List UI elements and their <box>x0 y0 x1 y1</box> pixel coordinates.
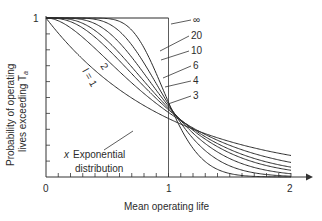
leader-line <box>160 36 189 51</box>
annotation-leader <box>104 131 133 150</box>
y-axis-label-line1: Probability of operating <box>5 64 16 166</box>
annotation-marker: x <box>63 149 70 160</box>
y-tick-1: 1 <box>33 13 39 24</box>
annotation-line1-group: xExponential <box>63 149 125 160</box>
annotation-line2: distribution <box>75 163 123 174</box>
x-tick-1: 1 <box>166 183 172 194</box>
curve-label: 10 <box>191 45 203 56</box>
x-tick-2: 2 <box>287 183 293 194</box>
curve-label: 6 <box>193 60 199 71</box>
annotation-line1: Exponential <box>73 149 125 160</box>
curve-label: 3 <box>193 90 199 101</box>
reliability-chart: 3461020∞2l = 1 1 0 1 2 Mean operating li… <box>0 0 322 221</box>
curve-label-2: 2 <box>98 61 110 72</box>
y-axis-label: Probability of operating lives exceeding… <box>5 64 29 166</box>
x-axis-label: Mean operating life <box>124 201 209 212</box>
curve-label: 4 <box>193 75 199 86</box>
curve-label: ∞ <box>193 14 200 25</box>
y-axis-label-subscript: a <box>22 71 29 75</box>
leader-line <box>171 20 191 24</box>
y-axis-label-line2: lives exceeding T <box>17 75 28 152</box>
leader-line <box>168 96 191 104</box>
curve-label-l1: l = 1 <box>80 67 99 89</box>
leader-line <box>163 66 191 78</box>
curve-label: 20 <box>191 30 203 41</box>
x-tick-0: 0 <box>43 183 49 194</box>
leader-line <box>161 51 189 60</box>
y-axis-label-line2-group: lives exceeding Ta <box>17 71 29 152</box>
x-axis-arrow-icon <box>306 174 313 181</box>
